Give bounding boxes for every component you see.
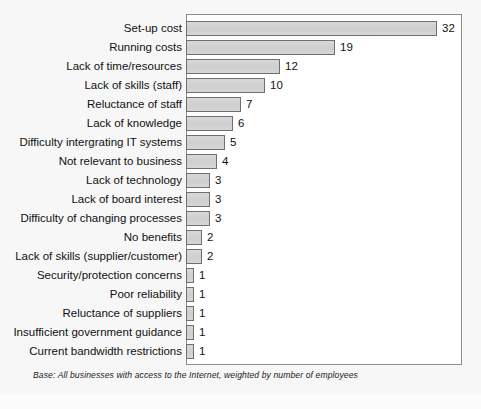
category-label: Lack of skills (staff) [84,76,182,95]
value-label: 19 [335,38,353,57]
value-label: 6 [233,114,244,133]
value-label: 7 [241,95,252,114]
bar-row: Lack of knowledge6 [0,114,481,133]
value-label: 3 [210,209,221,228]
value-label: 3 [210,190,221,209]
bar-row: Reluctance of suppliers1 [0,304,481,323]
bar-row: Set-up cost32 [0,19,481,38]
bar-rows: Set-up cost32Running costs19Lack of time… [0,19,481,361]
bar-wrapper [186,154,217,169]
bar [186,154,217,169]
category-label: Insufficient government guidance [13,323,182,342]
value-label: 3 [210,171,221,190]
bar-row: Difficulty of changing processes3 [0,209,481,228]
bar-wrapper [186,249,202,264]
bar-row: Difficulty intergrating IT systems5 [0,133,481,152]
value-label: 1 [194,285,205,304]
bar [186,211,210,226]
bar-wrapper [186,21,437,36]
bar-wrapper [186,59,280,74]
bar [186,116,233,131]
value-label: 1 [194,323,205,342]
value-label: 4 [217,152,228,171]
value-label: 12 [280,57,298,76]
value-label: 10 [265,76,283,95]
category-label: Reluctance of staff [87,95,182,114]
bar [186,268,194,283]
bar-row: Not relevant to business4 [0,152,481,171]
bar-wrapper [186,344,194,359]
category-label: Current bandwidth restrictions [29,342,182,361]
bar [186,21,437,36]
bar [186,59,280,74]
category-label: Lack of skills (supplier/customer) [15,247,182,266]
bar-row: Lack of time/resources12 [0,57,481,76]
category-label: Difficulty of changing processes [20,209,182,228]
category-label: Lack of technology [86,171,182,190]
bar-wrapper [186,306,194,321]
bar-row: Current bandwidth restrictions1 [0,342,481,361]
bar-wrapper [186,116,233,131]
bar-wrapper [186,97,241,112]
value-label: 1 [194,342,205,361]
bar [186,325,194,340]
bar-row: Reluctance of staff7 [0,95,481,114]
bar-wrapper [186,173,210,188]
bar-row: No benefits2 [0,228,481,247]
bar-row: Lack of board interest3 [0,190,481,209]
bar-row: Security/protection concerns1 [0,266,481,285]
chart-figure: Set-up cost32Running costs19Lack of time… [0,0,481,409]
bar [186,306,194,321]
bar [186,344,194,359]
bar-wrapper [186,192,210,207]
bar-wrapper [186,135,225,150]
category-label: Difficulty intergrating IT systems [19,133,182,152]
category-label: Running costs [109,38,182,57]
bar [186,249,202,264]
bar-row: Lack of skills (staff)10 [0,76,481,95]
bar [186,78,265,93]
bar-wrapper [186,230,202,245]
bar [186,97,241,112]
bar-row: Poor reliability1 [0,285,481,304]
value-label: 2 [202,247,213,266]
value-label: 32 [437,19,455,38]
bar-wrapper [186,325,194,340]
value-label: 2 [202,228,213,247]
category-label: Poor reliability [110,285,182,304]
category-label: Reluctance of suppliers [62,304,182,323]
category-label: Lack of knowledge [87,114,182,133]
bar-wrapper [186,287,194,302]
value-label: 1 [194,304,205,323]
category-label: Lack of board interest [71,190,182,209]
bar [186,173,210,188]
bar-wrapper [186,78,265,93]
category-label: No benefits [124,228,182,247]
bar [186,287,194,302]
bar-wrapper [186,211,210,226]
bar-row: Lack of skills (supplier/customer)2 [0,247,481,266]
bar-wrapper [186,268,194,283]
chart-footnote: Base: All businesses with access to the … [33,370,358,380]
value-label: 1 [194,266,205,285]
category-label: Set-up cost [124,19,182,38]
bar-row: Running costs19 [0,38,481,57]
bar [186,230,202,245]
bar [186,192,210,207]
bar-row: Insufficient government guidance1 [0,323,481,342]
bar-row: Lack of technology3 [0,171,481,190]
value-label: 5 [225,133,236,152]
category-label: Security/protection concerns [37,266,182,285]
bar [186,40,335,55]
bar [186,135,225,150]
bar-wrapper [186,40,335,55]
category-label: Not relevant to business [59,152,182,171]
category-label: Lack of time/resources [66,57,182,76]
